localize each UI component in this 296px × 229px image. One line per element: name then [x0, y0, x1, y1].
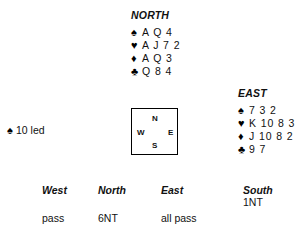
compass-north-label: N — [152, 115, 158, 123]
spade-icon: ♠ — [131, 26, 142, 39]
east-spades-row: ♠ 7 3 2 — [238, 104, 295, 117]
east-spades-cards: 7 3 2 — [249, 104, 277, 117]
compass-south-label: S — [152, 142, 157, 150]
north-hand-label: NORTH — [131, 9, 180, 21]
compass-east-label: E — [168, 129, 173, 137]
east-clubs-cards: 9 7 — [249, 143, 266, 156]
north-diamonds-row: ♦ A Q 3 — [131, 52, 180, 65]
bidding-header-north: North — [98, 184, 126, 196]
heart-icon: ♥ — [238, 117, 249, 130]
bidding-call-south-1: 1NT — [243, 196, 263, 208]
bidding-call-west-2: pass — [42, 212, 64, 224]
diamond-icon: ♦ — [238, 130, 249, 143]
bidding-header-west: West — [42, 184, 67, 196]
east-hearts-cards: K 10 8 3 — [249, 117, 295, 130]
east-diamonds-row: ♦ J 10 8 2 — [238, 130, 295, 143]
east-hearts-row: ♥ K 10 8 3 — [238, 117, 295, 130]
bidding-header-south: South — [243, 184, 273, 196]
club-icon: ♣ — [238, 143, 249, 156]
north-spades-cards: A Q 4 — [142, 26, 173, 39]
club-icon: ♣ — [131, 65, 142, 78]
north-spades-row: ♠ A Q 4 — [131, 26, 180, 39]
east-diamonds-cards: J 10 8 2 — [249, 130, 294, 143]
east-hand-label: EAST — [238, 87, 295, 99]
east-hand-block: EAST ♠ 7 3 2 ♥ K 10 8 3 ♦ J 10 8 2 ♣ 9 7 — [238, 87, 295, 156]
spade-icon: ♠ — [7, 124, 16, 137]
north-hand-block: NORTH ♠ A Q 4 ♥ A J 7 2 ♦ A Q 3 ♣ Q 8 4 — [131, 9, 180, 78]
heart-icon: ♥ — [131, 39, 142, 52]
compass-box: N W E S — [131, 108, 178, 155]
opening-lead: ♠10 led — [7, 124, 45, 137]
bidding-call-north-2: 6NT — [98, 212, 118, 224]
diamond-icon: ♦ — [131, 52, 142, 65]
north-diamonds-cards: A Q 3 — [142, 52, 173, 65]
compass-west-label: W — [137, 129, 145, 137]
spade-icon: ♠ — [238, 104, 249, 117]
north-hearts-cards: A J 7 2 — [142, 39, 180, 52]
bidding-header-east: East — [161, 184, 183, 196]
opening-lead-text: 10 led — [16, 124, 45, 136]
east-clubs-row: ♣ 9 7 — [238, 143, 295, 156]
bidding-call-east-2: all pass — [161, 212, 197, 224]
east-hand-cards: ♠ 7 3 2 ♥ K 10 8 3 ♦ J 10 8 2 ♣ 9 7 — [238, 104, 295, 156]
north-hand-cards: ♠ A Q 4 ♥ A J 7 2 ♦ A Q 3 ♣ Q 8 4 — [131, 26, 180, 78]
bridge-hand-diagram: NORTH ♠ A Q 4 ♥ A J 7 2 ♦ A Q 3 ♣ Q 8 4 … — [0, 0, 296, 229]
north-clubs-cards: Q 8 4 — [142, 65, 172, 78]
north-hearts-row: ♥ A J 7 2 — [131, 39, 180, 52]
north-clubs-row: ♣ Q 8 4 — [131, 65, 180, 78]
